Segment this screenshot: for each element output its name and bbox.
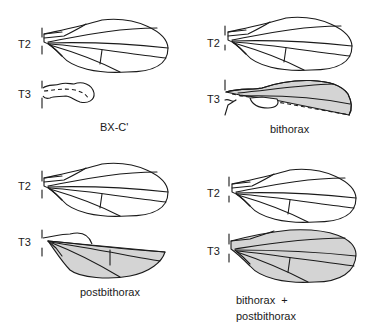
panel-bithorax: T2 T3 bithorax	[207, 17, 352, 135]
wing-transformation-diagram: T2 T3 BX-C' T2 T3 bithorax	[0, 0, 376, 332]
t3-anterior-wing-transformed	[226, 80, 351, 115]
segment-label-t3: T3	[207, 245, 220, 257]
caption-bithorax-line2: postbithorax	[236, 310, 296, 322]
segment-label-t3: T3	[18, 88, 31, 100]
segment-label-t2: T2	[18, 38, 31, 50]
t2-wing	[228, 17, 352, 70]
panel-bx-c: T2 T3 BX-C'	[18, 19, 168, 133]
caption-bx-c: BX-C'	[100, 121, 128, 133]
segment-label-t2: T2	[207, 37, 220, 49]
segment-label-t2: T2	[18, 180, 31, 192]
thorax-outline-t3	[225, 80, 236, 115]
panel-bithorax-postbithorax: T2 T3 bithorax + postbithorax	[207, 169, 356, 322]
t3-complete-wing	[231, 230, 356, 283]
t2-wing	[44, 19, 168, 72]
caption-postbithorax: postbithorax	[80, 286, 140, 298]
caption-bithorax-line1: bithorax +	[236, 294, 288, 306]
panel-postbithorax: T2 T3 postbithorax	[18, 163, 168, 298]
segment-label-t3: T3	[18, 236, 31, 248]
t3-posterior-wing-transformed	[43, 233, 165, 278]
t2-wing	[232, 169, 356, 222]
segment-label-t2: T2	[207, 187, 220, 199]
caption-bithorax: bithorax	[270, 123, 310, 135]
t3-haltere	[43, 83, 94, 103]
t2-wing	[44, 163, 168, 216]
segment-label-t3: T3	[207, 93, 220, 105]
